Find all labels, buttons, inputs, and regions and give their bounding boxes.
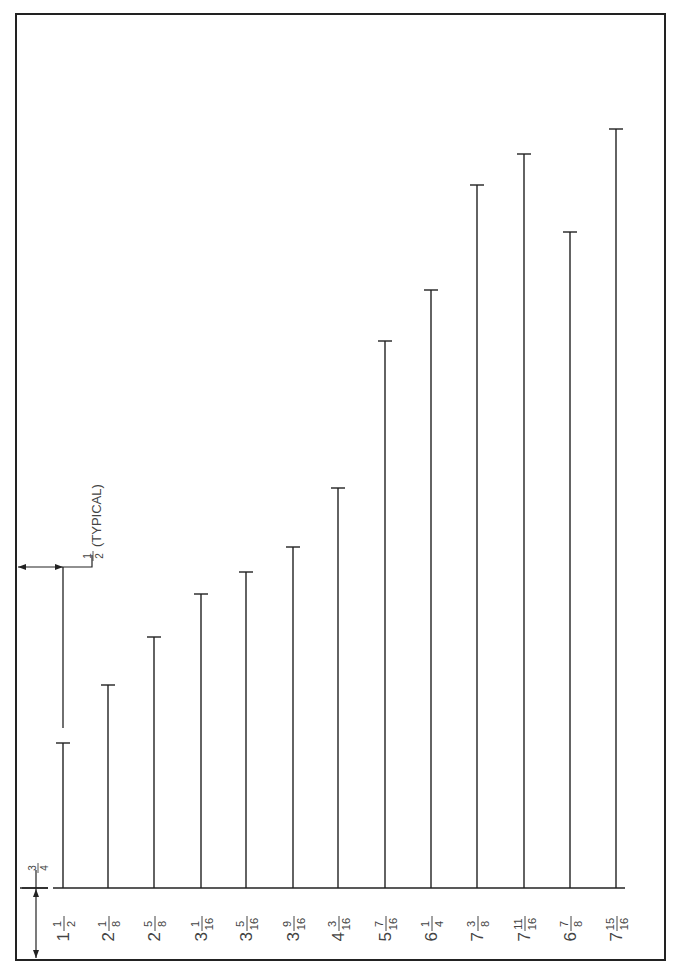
drawing-frame [16, 14, 665, 960]
label-numerator: 1 [51, 921, 63, 927]
label-denominator: 8 [572, 921, 584, 927]
typical-label: (TYPICAL) [89, 484, 104, 547]
label-denominator: 2 [65, 921, 77, 927]
label-numerator: 1 [96, 921, 108, 927]
measurement-label: 3116 [189, 916, 215, 941]
arrowhead-right-icon [55, 564, 63, 570]
label-numerator: 3 [465, 921, 477, 927]
measurement-label: 614 [419, 916, 445, 941]
offset-dimension: 3 4 [22, 863, 50, 958]
measurement-label: 4316 [326, 916, 352, 941]
label-whole: 7 [515, 932, 534, 941]
label-whole: 3 [284, 932, 303, 941]
label-denominator: 8 [479, 921, 491, 927]
technical-drawing: 1122182583116351639164316571661473871116… [0, 0, 680, 973]
measurement-label: 5716 [373, 916, 399, 941]
label-whole: 5 [376, 932, 395, 941]
label-whole: 7 [607, 932, 626, 941]
label-whole: 4 [329, 932, 348, 941]
label-denominator: 16 [248, 918, 260, 930]
measurement-label: 112 [51, 916, 77, 941]
label-denominator: 4 [433, 921, 445, 927]
arrowhead-down-icon [33, 950, 39, 958]
label-numerator: 9 [281, 921, 293, 927]
label-denominator: 16 [203, 918, 215, 930]
measurement-label: 3516 [234, 916, 260, 941]
arrowhead-up-icon [33, 889, 39, 897]
label-numerator: 1 [189, 921, 201, 927]
measurement-label: 218 [96, 916, 122, 941]
label-numerator: 7 [558, 921, 570, 927]
typical-spacing-dimension: 1 2 (TYPICAL) [18, 484, 105, 570]
measurement-label: 71116 [512, 916, 538, 941]
label-whole: 6 [422, 932, 441, 941]
label-numerator: 3 [326, 921, 338, 927]
measurement-labels: 1122182583116351639164316571661473871116… [51, 916, 630, 941]
measurement-label: 3916 [281, 916, 307, 941]
measurement-lines [56, 129, 623, 888]
label-whole: 2 [99, 932, 118, 941]
measurement-label: 71516 [604, 916, 630, 941]
label-numerator: 7 [373, 921, 385, 927]
label-whole: 6 [561, 932, 580, 941]
label-denominator: 16 [340, 918, 352, 930]
typical-fraction-num: 1 [82, 553, 93, 559]
offset-fraction-num: 3 [27, 865, 38, 871]
measurement-label: 738 [465, 916, 491, 941]
label-numerator: 5 [234, 921, 246, 927]
measurement-label: 258 [142, 916, 168, 941]
label-whole: 7 [468, 932, 487, 941]
label-numerator: 5 [142, 921, 154, 927]
label-whole: 2 [145, 932, 164, 941]
measurement-label: 678 [558, 916, 584, 941]
label-whole: 1 [54, 932, 73, 941]
label-whole: 3 [237, 932, 256, 941]
arrowhead-left-icon [18, 564, 26, 570]
label-denominator: 8 [110, 921, 122, 927]
label-denominator: 16 [295, 918, 307, 930]
label-denominator: 16 [618, 918, 630, 930]
offset-fraction-den: 4 [39, 865, 50, 871]
label-denominator: 16 [526, 918, 538, 930]
label-whole: 3 [192, 932, 211, 941]
label-numerator: 15 [604, 918, 616, 930]
label-denominator: 8 [156, 921, 168, 927]
label-numerator: 1 [419, 921, 431, 927]
label-denominator: 16 [387, 918, 399, 930]
label-numerator: 11 [512, 918, 524, 929]
typical-fraction-den: 2 [94, 553, 105, 559]
